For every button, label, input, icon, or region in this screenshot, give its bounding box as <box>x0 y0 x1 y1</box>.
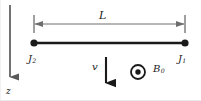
field-label: B0 <box>153 64 165 75</box>
right-terminal-label: J1 <box>178 54 186 65</box>
field-symbol: B <box>153 63 160 74</box>
left-terminal-subscript: 2 <box>32 57 36 64</box>
z-axis-label: z <box>6 87 11 96</box>
field-dot <box>135 69 140 74</box>
conducting-rod <box>30 39 188 46</box>
length-label: L <box>99 10 106 21</box>
terminal-node-right <box>181 39 188 46</box>
field-out-of-page-icon <box>131 65 145 79</box>
velocity-label: v <box>92 62 98 72</box>
terminal-node-left <box>30 39 37 46</box>
left-terminal-label: J2 <box>28 54 36 65</box>
field-subscript: 0 <box>161 67 165 74</box>
physics-diagram: L J2 J1 v B0 z <box>0 0 201 101</box>
length-dimension <box>34 15 185 33</box>
right-terminal-subscript: 1 <box>182 57 186 64</box>
